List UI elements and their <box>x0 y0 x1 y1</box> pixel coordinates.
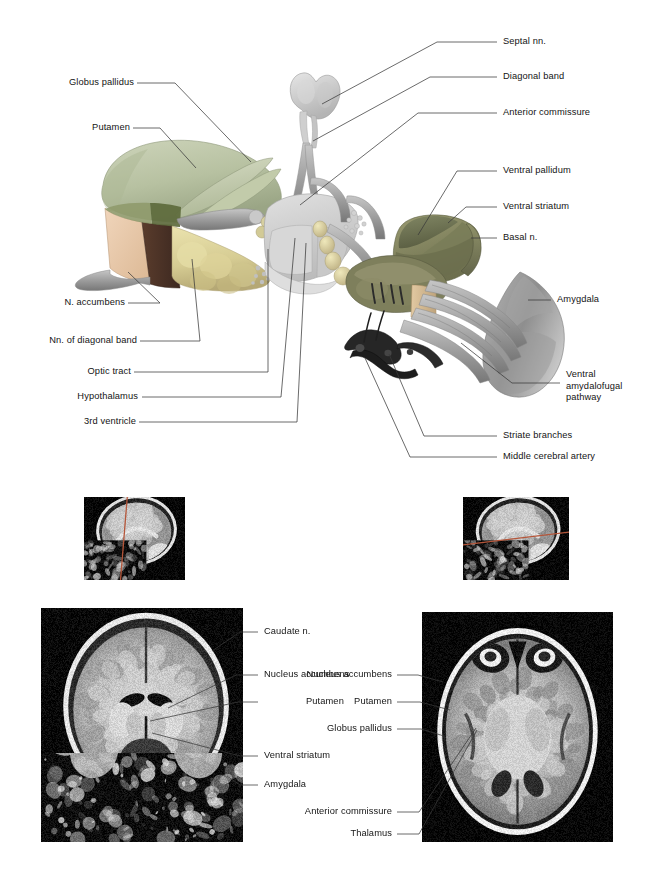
mri-label-caudate-n: Caudate n. <box>264 626 311 638</box>
mri-label-globus-pallidus-axial: Globus pallidus <box>272 723 392 735</box>
mri-label-anterior-commissure-axial: Anterior commissure <box>252 806 392 818</box>
mri-label-nucleus-accumbens-axial: Nucleus accumbens <box>252 669 392 681</box>
mri-label-amygdala: Amygdala <box>264 779 306 791</box>
mri-leader-lines <box>0 0 655 874</box>
mri-label-putamen-axial: Putamen <box>282 696 392 708</box>
mri-label-ventral-striatum: Ventral striatum <box>264 750 330 762</box>
anatomy-figure-plate: Globus pallidus Putamen N. accumbens Nn.… <box>0 0 655 874</box>
mri-label-thalamus-axial: Thalamus <box>272 828 392 840</box>
